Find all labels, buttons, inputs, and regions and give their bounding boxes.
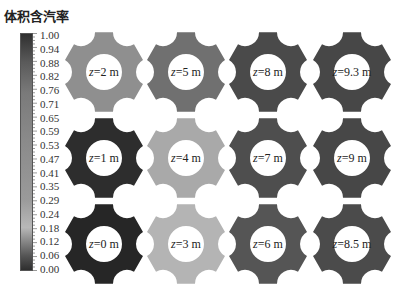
gear-label: z=1 m xyxy=(88,151,119,165)
gear-section-z-8: z=8 m xyxy=(229,32,307,112)
gear-label: z=3 m xyxy=(170,237,201,251)
gear-label: z=2 m xyxy=(88,65,119,79)
gear-label: z=4 m xyxy=(170,151,201,165)
gear-label: z=5 m xyxy=(170,65,201,79)
gear-label: z=9.3 m xyxy=(332,65,372,79)
gear-section-z-4: z=4 m xyxy=(147,118,225,198)
gear-label: z=9 m xyxy=(336,151,367,165)
gear-label: z=8 m xyxy=(252,65,283,79)
gear-section-z-9_3: z=9.3 m xyxy=(313,32,391,112)
gear-section-z-9: z=9 m xyxy=(313,118,391,198)
gear-section-z-8_5: z=8.5 m xyxy=(313,204,391,284)
gear-section-z-7: z=7 m xyxy=(229,118,307,198)
gear-label: z=8.5 m xyxy=(332,237,372,251)
gear-section-z-6: z=6 m xyxy=(229,204,307,284)
gear-label: z=7 m xyxy=(252,151,283,165)
gear-label: z=0 m xyxy=(88,237,119,251)
gear-section-z-2: z=2 m xyxy=(65,32,143,112)
gear-section-z-1: z=1 m xyxy=(65,118,143,198)
gear-section-z-3: z=3 m xyxy=(147,204,225,284)
gear-section-z-0: z=0 m xyxy=(65,204,143,284)
gear-cross-sections: z=2 mz=5 mz=8 mz=9.3 mz=1 mz=4 mz=7 mz=9… xyxy=(0,0,405,297)
gear-section-z-5: z=5 m xyxy=(147,32,225,112)
gear-label: z=6 m xyxy=(252,237,283,251)
